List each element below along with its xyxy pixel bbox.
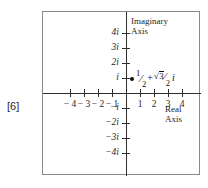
y-tick-minus4i	[122, 153, 130, 154]
y-tick-label-minus3i: −3i	[91, 132, 119, 142]
plus-operator: +	[146, 73, 154, 83]
x-tick-minus2	[98, 89, 99, 97]
imaginary-axis-title-line2: Axis	[131, 26, 168, 36]
y-tick-1i	[122, 78, 130, 79]
y-tick-label-1i: i	[91, 72, 119, 82]
imaginary-axis-title-line1: Imaginary	[131, 16, 168, 26]
fraction-denominator-2: 2	[166, 78, 170, 88]
x-tick-1	[140, 89, 141, 97]
imaginary-axis-line	[126, 12, 127, 176]
y-tick-minus2i	[122, 123, 130, 124]
x-tick-4	[182, 89, 183, 97]
figure-number-label: [6]	[7, 100, 19, 112]
y-tick-label-4i: 4i	[91, 27, 119, 37]
x-tick-3	[168, 89, 169, 97]
x-tick-minus1	[112, 89, 113, 97]
imaginary-axis-title: Imaginary Axis	[131, 16, 168, 36]
y-tick-label-3i: 3i	[91, 42, 119, 52]
square-root-icon: √3	[154, 71, 164, 81]
y-tick-minus3i	[122, 138, 130, 139]
y-tick-4i	[122, 33, 130, 34]
radicand-3: 3	[159, 71, 164, 81]
y-tick-label-minus2i: −2i	[91, 117, 119, 127]
y-tick-2i	[122, 63, 130, 64]
y-tick-label-minus4i: −4i	[91, 147, 119, 157]
fraction-one-half: 1⁄2	[136, 70, 146, 86]
fraction-sqrt3-over-2: √3⁄2	[154, 71, 170, 85]
real-axis-line	[43, 93, 201, 94]
real-axis-title: Real Axis	[165, 104, 182, 124]
plotted-point-marker	[130, 77, 134, 81]
fraction-denominator-1: 2	[142, 79, 146, 89]
real-axis-title-line2: Axis	[165, 114, 182, 124]
real-axis-title-line1: Real	[165, 104, 182, 114]
plotted-point-label: 1⁄2 + √3⁄2 i	[136, 70, 175, 86]
y-tick-label-2i: 2i	[91, 57, 119, 67]
imaginary-unit-i: i	[170, 73, 175, 83]
x-tick-minus4	[70, 89, 71, 97]
y-tick-label-minus1i: −i	[91, 102, 119, 112]
plot-frame: − 4 − 3 − 2 − 1 1 2 3 4 4i 3i 2i i −i −2…	[42, 11, 200, 175]
fraction-numerator-1: 1	[136, 68, 140, 78]
y-tick-3i	[122, 48, 130, 49]
x-tick-2	[154, 89, 155, 97]
y-tick-minus1i	[122, 108, 130, 109]
complex-plane-figure: [6] − 4 − 3 − 2 − 1 1 2 3 4 4i 3i 2i i	[0, 0, 208, 188]
x-tick-minus3	[84, 89, 85, 97]
